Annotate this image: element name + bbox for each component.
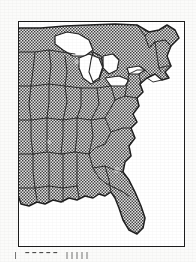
map-frame xyxy=(18,21,185,247)
map-drawing xyxy=(19,22,185,247)
distribution-map-figure: | ----- ||||| xyxy=(0,0,196,262)
clipped-caption-text: | ----- ||||| xyxy=(14,252,91,260)
clipped-caption-strip: | ----- ||||| xyxy=(0,252,196,262)
